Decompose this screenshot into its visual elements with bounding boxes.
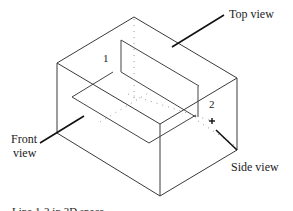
horizontal-plane-front-edge	[149, 115, 196, 143]
point-1-label: 1	[103, 52, 109, 64]
box-edge-top-right	[134, 17, 237, 78]
projection-lines	[100, 19, 236, 146]
box-edge-bottom-left	[57, 133, 160, 196]
vertical-plane-bottom-edge	[121, 72, 196, 117]
point-2-label: 2	[209, 98, 215, 110]
box-edge-top-front-left	[57, 63, 160, 124]
projection-line-side	[198, 121, 236, 146]
side-view-label: Side view	[231, 160, 279, 174]
projection-line-1-2	[128, 94, 212, 121]
figure-caption: Line 1-2 in 3D space	[12, 205, 104, 211]
box-edge-top-left	[57, 17, 134, 63]
front-view-leader	[40, 116, 84, 143]
vertical-plane	[121, 40, 199, 117]
top-view-leader	[172, 15, 224, 47]
top-view-label: Top view	[229, 7, 274, 21]
front-view-label-line1: Front	[11, 132, 38, 146]
front-view-label-line2: view	[13, 146, 37, 160]
projection-diagram: 1 2 Top view Front view Side view Line 1…	[0, 0, 293, 211]
point-2-marker-icon	[209, 118, 215, 124]
side-view-leader	[216, 130, 237, 150]
horizontal-plane-left-edge	[72, 97, 149, 143]
projection-line-diagonal	[100, 92, 150, 122]
box-edge-bottom-right	[160, 150, 237, 196]
